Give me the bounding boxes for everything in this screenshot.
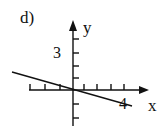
x-axis-label: x <box>148 97 157 114</box>
x-axis-arrow-icon <box>139 86 149 94</box>
y-axis-arrow-icon <box>69 20 77 31</box>
y-ticks <box>73 39 79 118</box>
y-tick-label-3: 3 <box>53 45 61 61</box>
x-tick-label-4: 4 <box>119 96 127 112</box>
graph-figure: d) y x 3 4 <box>0 0 164 134</box>
x-ticks <box>30 84 124 90</box>
y-axis-label: y <box>83 19 92 36</box>
panel-label: d) <box>20 9 34 26</box>
